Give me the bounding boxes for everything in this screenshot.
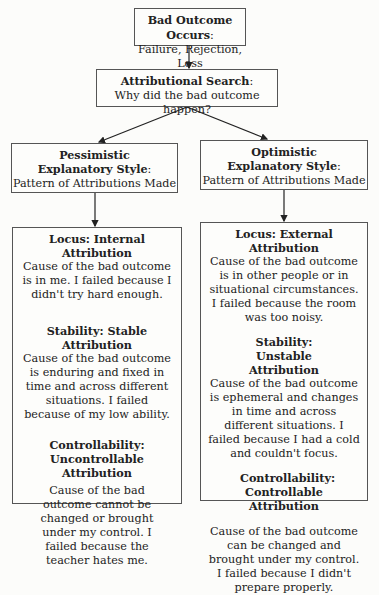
- optimistic-locus-title: Locus: External Attribution: [208, 227, 360, 255]
- pessimistic-title-1: Pessimistic: [12, 148, 177, 162]
- optimistic-stability: Stability: Unstable Attribution Cause of…: [208, 335, 360, 461]
- pessimistic-details-box: Locus: Internal Attribution Cause of the…: [12, 227, 182, 504]
- pessimistic-locus-text: Cause of the bad outcome is in me. I fai…: [21, 260, 173, 302]
- pessimistic-controllability-title: Controllability: Uncontrollable Attribut…: [21, 438, 173, 480]
- pessimistic-controllability-text: Cause of the bad outcome cannot be chang…: [21, 484, 173, 568]
- optimistic-text: Pattern of Attributions Made: [201, 174, 367, 188]
- attributional-search-box: Attributional Search: Why did the bad ou…: [96, 69, 278, 107]
- bad-outcome-title: Bad Outcome Occurs: [148, 13, 233, 42]
- attributional-search-title: Attributional Search: [121, 74, 250, 88]
- pessimistic-stability-text: Cause of the bad outcome is enduring and…: [21, 352, 173, 422]
- optimistic-locus: Locus: External Attribution Cause of the…: [208, 227, 360, 325]
- optimistic-title-1: Optimistic: [201, 145, 367, 159]
- pessimistic-title-2: Explanatory Style: [38, 162, 148, 176]
- bad-outcome-text: Failure, Rejection, Loss: [135, 43, 245, 71]
- optimistic-controllability: Controllability: Controllable Attributio…: [208, 471, 360, 595]
- optimistic-style-box: Optimistic Explanatory Style: Pattern of…: [200, 140, 368, 190]
- pessimistic-locus-title: Locus: Internal Attribution: [21, 232, 173, 260]
- optimistic-controllability-title: Controllability: Controllable Attributio…: [208, 471, 360, 513]
- pessimistic-locus: Locus: Internal Attribution Cause of the…: [21, 232, 173, 302]
- pessimistic-text: Pattern of Attributions Made: [12, 177, 177, 191]
- pessimistic-stability-title: Stability: Stable Attribution: [21, 324, 173, 352]
- optimistic-locus-text: Cause of the bad outcome is in other peo…: [208, 255, 360, 325]
- optimistic-title-2: Explanatory Style: [227, 159, 337, 173]
- optimistic-details-box: Locus: External Attribution Cause of the…: [200, 222, 368, 501]
- optimistic-stability-text: Cause of the bad outcome is ephemeral an…: [208, 377, 360, 461]
- pessimistic-controllability: Controllability: Uncontrollable Attribut…: [21, 438, 173, 568]
- optimistic-controllability-text: Cause of the bad outcome can be changed …: [208, 525, 360, 595]
- optimistic-stability-title: Stability: Unstable Attribution: [208, 335, 360, 377]
- pessimistic-style-box: Pessimistic Explanatory Style: Pattern o…: [11, 143, 178, 193]
- bad-outcome-box: Bad Outcome Occurs: Failure, Rejection, …: [134, 8, 246, 46]
- attributional-search-text: Why did the bad outcome happen?: [97, 89, 277, 117]
- pessimistic-stability: Stability: Stable Attribution Cause of t…: [21, 324, 173, 422]
